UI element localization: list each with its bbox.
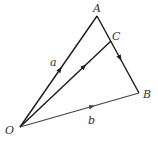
vector-ab (97, 16, 139, 93)
label-point-o: O (5, 124, 14, 137)
diagram-svg: A C B O a b (0, 0, 158, 142)
vector-diagram: A C B O a b (0, 0, 158, 142)
label-point-a: A (92, 2, 101, 15)
vector-oa (20, 16, 97, 127)
label-vector-b: b (88, 114, 95, 127)
label-point-c: C (112, 30, 121, 43)
label-point-b: B (142, 88, 151, 101)
label-vector-a: a (50, 56, 57, 69)
